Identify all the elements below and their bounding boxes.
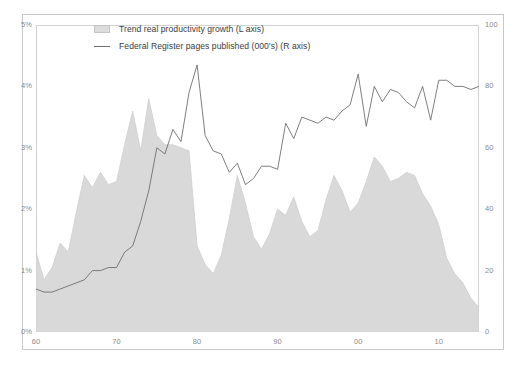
chart-figure: Trend real productivity growth (L axis) … bbox=[0, 0, 522, 366]
y-axis-left-tick-5pct: 5% bbox=[6, 21, 32, 29]
area-series-group bbox=[36, 99, 479, 332]
y-axis-right-tick-40: 40 bbox=[485, 205, 511, 213]
y-axis-left-tick-0pct: 0% bbox=[6, 328, 32, 336]
y-axis-left-tick-3pct: 3% bbox=[6, 144, 32, 152]
x-axis-tick-90: 90 bbox=[266, 338, 290, 346]
x-axis-tick-00: 00 bbox=[346, 338, 370, 346]
line-swatch-icon bbox=[94, 42, 110, 50]
x-axis-tick-70: 70 bbox=[105, 338, 129, 346]
x-axis-tick-60: 60 bbox=[24, 338, 48, 346]
y-axis-right-tick-0: 0 bbox=[485, 328, 511, 336]
area-swatch-icon bbox=[94, 25, 110, 33]
y-axis-right-tick-100: 100 bbox=[485, 21, 511, 29]
y-axis-right-tick-60: 60 bbox=[485, 144, 511, 152]
chart-legend: Trend real productivity growth (L axis) … bbox=[94, 20, 394, 54]
y-axis-left-tick-4pct: 4% bbox=[6, 82, 32, 90]
y-axis-right-tick-80: 80 bbox=[485, 82, 511, 90]
y-axis-left-tick-1pct: 1% bbox=[6, 267, 32, 275]
y-axis-right-tick-20: 20 bbox=[485, 267, 511, 275]
legend-label-trend-productivity: Trend real productivity growth (L axis) bbox=[119, 24, 264, 34]
y-axis-left-tick-2pct: 2% bbox=[6, 205, 32, 213]
legend-item-trend-productivity: Trend real productivity growth (L axis) bbox=[94, 20, 394, 37]
x-axis-tick-10: 10 bbox=[427, 338, 451, 346]
legend-label-federal-register: Federal Register pages published (000's)… bbox=[119, 41, 310, 51]
x-axis-tick-80: 80 bbox=[185, 338, 209, 346]
chart-plot bbox=[36, 25, 479, 332]
legend-item-federal-register: Federal Register pages published (000's)… bbox=[94, 37, 394, 54]
area-series-trend-productivity bbox=[36, 99, 479, 332]
